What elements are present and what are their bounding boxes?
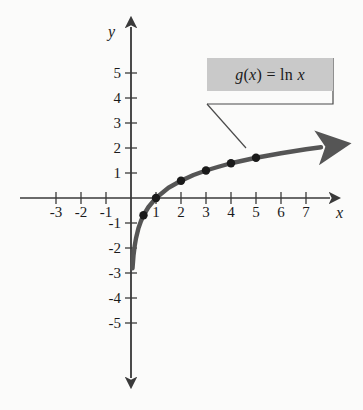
function-label-text: g(x) = ln x xyxy=(235,66,305,84)
y-tick-label-5: 5 xyxy=(103,66,121,81)
y-tick-label-1: 1 xyxy=(103,166,121,181)
x-tick-label-1: 1 xyxy=(148,205,164,220)
y-tick-label--5: -5 xyxy=(97,316,121,331)
x-tick-label-2: 2 xyxy=(173,205,189,220)
function-label-callout: g(x) = ln x xyxy=(207,58,333,91)
x-tick-label--2: -2 xyxy=(71,205,91,220)
x-tick-label-4: 4 xyxy=(223,205,239,220)
y-tick-label-4: 4 xyxy=(103,91,121,106)
y-tick-label--3: -3 xyxy=(97,266,121,281)
curve-point xyxy=(177,177,185,185)
y-tick-label-3: 3 xyxy=(103,116,121,131)
y-tick-label--4: -4 xyxy=(97,291,121,306)
x-axis-label: x xyxy=(336,205,343,221)
x-tick-label-3: 3 xyxy=(198,205,214,220)
curve-point xyxy=(252,154,260,162)
x-tick-label-7: 7 xyxy=(298,205,314,220)
x-tick-label-6: 6 xyxy=(273,205,289,220)
curve-point xyxy=(202,166,210,174)
curve-point xyxy=(152,194,160,202)
curve-point xyxy=(227,159,235,167)
y-tick-label-2: 2 xyxy=(103,141,121,156)
y-tick-label--1: -1 xyxy=(97,216,121,231)
x-tick-label-5: 5 xyxy=(248,205,264,220)
y-tick-label--2: -2 xyxy=(97,241,121,256)
x-tick-label--3: -3 xyxy=(46,205,66,220)
curve-point xyxy=(139,211,147,219)
y-axis-label: y xyxy=(108,24,115,40)
logarithm-graph-figure: g(x) = ln x y x -3 -2 -1 1 2 3 4 5 6 7 5… xyxy=(0,0,363,410)
callout-pointer-line xyxy=(207,104,246,148)
